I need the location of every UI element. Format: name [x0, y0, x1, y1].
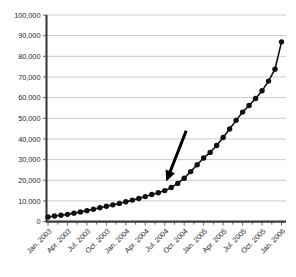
- data-point-marker: [104, 204, 109, 209]
- data-point-marker: [110, 202, 115, 207]
- data-point-marker: [253, 96, 258, 101]
- data-point-marker: [97, 205, 102, 210]
- data-point-marker: [214, 143, 219, 148]
- data-point-marker: [78, 209, 83, 214]
- data-point-marker: [233, 118, 238, 123]
- y-tick-label: 50,000: [18, 114, 40, 123]
- data-point-marker: [227, 126, 232, 131]
- data-point-marker: [130, 197, 135, 202]
- data-point-marker: [162, 188, 167, 193]
- y-tick-label: 0: [36, 217, 40, 226]
- data-point-marker: [117, 201, 122, 206]
- y-tick-label: 100,000: [14, 11, 40, 20]
- data-point-marker: [246, 103, 251, 108]
- data-point-marker: [266, 78, 271, 83]
- data-point-marker: [188, 169, 193, 174]
- data-point-marker: [194, 162, 199, 167]
- y-tick-label: 10,000: [18, 197, 40, 206]
- y-tick-label: 90,000: [18, 31, 40, 40]
- data-point-marker: [220, 135, 225, 140]
- y-tick-label: 40,000: [18, 135, 40, 144]
- y-tick-label: 30,000: [18, 155, 40, 164]
- data-point-marker: [91, 207, 96, 212]
- data-point-marker: [149, 192, 154, 197]
- data-point-marker: [143, 194, 148, 199]
- data-point-marker: [45, 214, 50, 219]
- data-point-marker: [272, 66, 277, 71]
- data-point-marker: [201, 155, 206, 160]
- chart-canvas: 010,00020,00030,00040,00050,00060,00070,…: [0, 0, 296, 277]
- data-point-marker: [279, 39, 284, 44]
- y-tick-label: 20,000: [18, 176, 40, 185]
- data-point-marker: [156, 190, 161, 195]
- data-point-marker: [207, 150, 212, 155]
- data-point-marker: [182, 176, 187, 181]
- data-point-marker: [84, 208, 89, 213]
- data-point-marker: [123, 199, 128, 204]
- line-chart: 010,00020,00030,00040,00050,00060,00070,…: [0, 0, 296, 277]
- data-point-marker: [136, 196, 141, 201]
- y-tick-label: 60,000: [18, 93, 40, 102]
- y-tick-label: 80,000: [18, 52, 40, 61]
- data-point-marker: [65, 212, 70, 217]
- data-point-marker: [169, 185, 174, 190]
- data-point-marker: [58, 213, 63, 218]
- data-point-marker: [71, 210, 76, 215]
- data-point-marker: [259, 88, 264, 93]
- y-tick-label: 70,000: [18, 73, 40, 82]
- data-point-marker: [240, 109, 245, 114]
- data-point-marker: [52, 213, 57, 218]
- data-point-marker: [175, 181, 180, 186]
